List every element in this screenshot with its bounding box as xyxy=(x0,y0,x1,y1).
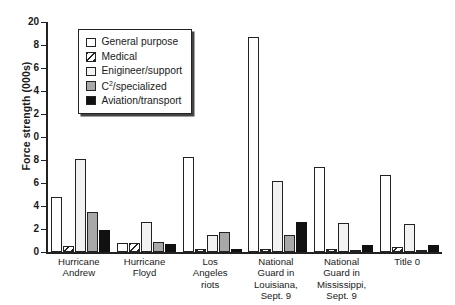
y-tick-label: 8 xyxy=(33,40,39,50)
bar-engineer xyxy=(404,224,415,252)
legend-swatch-general xyxy=(86,38,96,48)
bar-medical xyxy=(326,249,337,252)
bar-c2 xyxy=(416,250,427,252)
y-tick-label: 6 xyxy=(33,63,39,73)
y-tick-mark xyxy=(41,160,48,161)
bar-engineer xyxy=(338,223,349,252)
bar-group xyxy=(376,22,442,252)
bar-medical xyxy=(63,246,74,252)
y-tick-mark xyxy=(41,22,48,23)
bar-c2 xyxy=(87,212,98,252)
y-tick-mark xyxy=(41,183,48,184)
x-axis-label: HurricaneAndrew xyxy=(46,256,112,304)
y-tick-label: 0 xyxy=(33,132,39,142)
bar-medical xyxy=(195,249,206,252)
x-axis-category-labels: HurricaneAndrewHurricaneFloydLosAngelesr… xyxy=(46,256,440,304)
legend-item: Aviation/transport xyxy=(86,93,182,108)
bar-aviation xyxy=(231,249,242,252)
legend-item-label: Enigineer/support xyxy=(102,66,183,76)
bar-chart: Force strength (000s) 024680246820 Hurri… xyxy=(0,0,455,305)
x-axis-label: LosAngelesriots xyxy=(177,256,243,304)
bar-medical xyxy=(129,243,140,252)
y-tick-mark xyxy=(41,91,48,92)
bar-engineer xyxy=(207,235,218,252)
legend-swatch-c2 xyxy=(86,81,96,91)
bar-aviation xyxy=(296,222,307,252)
y-tick-mark xyxy=(41,68,48,69)
y-tick-mark xyxy=(41,137,48,138)
bar-group xyxy=(245,22,311,252)
y-tick-mark xyxy=(41,252,48,253)
x-axis-label: HurricaneFloyd xyxy=(112,256,178,304)
y-tick-label: 6 xyxy=(33,178,39,188)
bar-general xyxy=(51,197,62,252)
legend-swatch-aviation xyxy=(86,96,96,106)
legend-item: Medical xyxy=(86,50,182,65)
bar-aviation xyxy=(165,244,176,252)
x-axis-label: NationalGuard inLouisiana,Sept. 9 xyxy=(243,256,309,304)
legend-item-label: General purpose xyxy=(102,37,179,47)
bar-aviation xyxy=(428,245,439,252)
bar-c2 xyxy=(153,242,164,252)
bar-medical xyxy=(260,249,271,252)
x-axis-label: NationalGuard inMississippi,Sept. 9 xyxy=(309,256,375,304)
bar-general xyxy=(183,157,194,252)
bar-c2 xyxy=(284,235,295,252)
bar-general xyxy=(248,37,259,252)
legend-item-label: Aviation/transport xyxy=(102,96,182,106)
bar-c2 xyxy=(350,250,361,252)
bar-general xyxy=(380,175,391,252)
bar-group xyxy=(311,22,377,252)
x-axis-label: Title 0 xyxy=(374,256,440,304)
bar-medical xyxy=(392,247,403,252)
legend-item-label: Medical xyxy=(102,52,137,62)
bar-general xyxy=(117,243,128,252)
y-tick-mark xyxy=(41,206,48,207)
bar-aviation xyxy=(99,230,110,252)
legend-item-label: C2/specialized xyxy=(102,80,167,93)
y-axis-title: Force strength (000s) xyxy=(20,46,32,186)
chart-legend: General purposeMedicalEnigineer/supportC… xyxy=(78,29,192,114)
y-tick-mark xyxy=(41,229,48,230)
y-tick-label: 2 xyxy=(33,224,39,234)
legend-item: C2/specialized xyxy=(86,79,182,94)
bar-general xyxy=(314,167,325,252)
y-tick-label: 4 xyxy=(33,86,39,96)
legend-swatch-medical xyxy=(86,52,96,62)
legend-item: Enigineer/support xyxy=(86,64,182,79)
y-tick-label: 20 xyxy=(28,17,39,27)
legend-item: General purpose xyxy=(86,35,182,50)
bar-c2 xyxy=(219,232,230,252)
bar-aviation xyxy=(362,245,373,252)
y-tick-label: 8 xyxy=(33,155,39,165)
y-tick-mark xyxy=(41,114,48,115)
bar-engineer xyxy=(75,159,86,252)
y-tick-mark xyxy=(41,45,48,46)
y-tick-label: 0 xyxy=(33,247,39,257)
y-tick-label: 2 xyxy=(33,109,39,119)
y-tick-label: 4 xyxy=(33,201,39,211)
legend-swatch-engineer xyxy=(86,67,96,77)
bar-engineer xyxy=(272,181,283,252)
bar-engineer xyxy=(141,222,152,252)
